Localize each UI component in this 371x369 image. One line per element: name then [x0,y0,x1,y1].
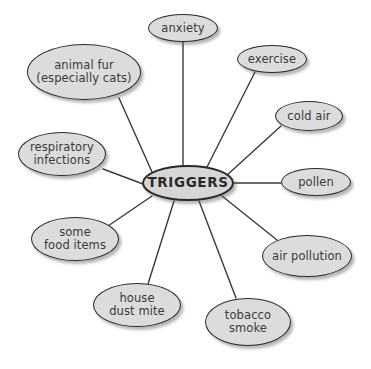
node-exercise[interactable]: exercise [237,45,307,73]
node-pollen[interactable]: pollen [281,168,351,196]
node-animal-fur[interactable]: animal fur (especially cats) [27,44,141,100]
connector-respiratory-infections [103,169,143,184]
node-air-pollution[interactable]: air pollution [262,235,352,277]
connector-house-dust-mite [148,201,174,284]
node-triggers[interactable]: TRIGGERS [142,165,234,201]
connector-air-pollution [222,196,277,240]
node-anxiety[interactable]: anxiety [148,14,218,42]
node-house-dust-mite[interactable]: house dust mite [93,283,181,327]
connector-animal-fur [119,98,152,172]
node-some-food-items[interactable]: some food items [31,217,119,261]
node-label-air-pollution: air pollution [268,250,346,263]
node-label-respiratory-infections: respiratory infections [26,141,98,167]
node-label-triggers: TRIGGERS [144,175,233,190]
node-respiratory-infections[interactable]: respiratory infections [18,132,106,176]
node-label-cold-air: cold air [283,110,334,123]
node-label-house-dust-mite: house dust mite [105,292,169,318]
node-label-tobacco-smoke: tobacco smoke [221,309,275,335]
node-label-pollen: pollen [294,176,338,189]
node-cold-air[interactable]: cold air [275,101,343,131]
node-label-anxiety: anxiety [157,22,208,35]
node-label-exercise: exercise [244,53,300,66]
connector-exercise [206,72,255,169]
mind-map-diagram: anxietyexercisecold airpollenair polluti… [0,0,371,369]
connector-tobacco-smoke [199,201,236,298]
connector-cold-air [226,126,281,176]
node-label-animal-fur: animal fur (especially cats) [32,59,135,85]
connector-some-food-items [108,196,152,226]
node-tobacco-smoke[interactable]: tobacco smoke [205,298,291,346]
node-label-some-food-items: some food items [40,226,110,252]
